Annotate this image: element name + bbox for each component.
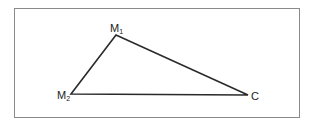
triangle-diagram [0,0,309,126]
triangle-shape [71,35,248,95]
vertex-label-m2: M2 [57,90,70,102]
vertex-label-c: C [251,91,259,102]
vertex-label-m1: M1 [110,23,123,35]
